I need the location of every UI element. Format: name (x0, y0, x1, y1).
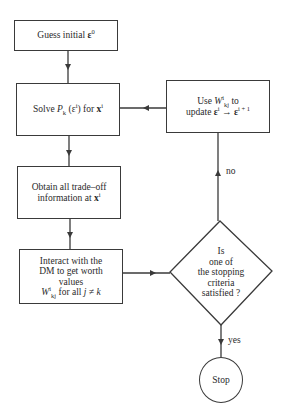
node-obtain-line1: Obtain all trade–off (32, 182, 107, 193)
arrow-left-icon (143, 105, 149, 111)
node-interact-line1: Interact with the (40, 256, 102, 267)
node-interact-dm: Interact with the DM to get worth values… (19, 249, 123, 304)
node-decision-stopping-criteria: Is one of the stopping criteria satisfie… (181, 246, 261, 299)
decision-line: satisfied ? (181, 288, 261, 299)
node-interact-line2: DM to get worth (39, 266, 103, 277)
arrow-down-icon (66, 150, 72, 156)
node-stop: Stop (199, 357, 243, 403)
arrow-down-icon (67, 232, 73, 238)
arrow-up-icon (215, 170, 221, 176)
decision-line: Is (181, 246, 261, 257)
decision-line: one of (181, 257, 261, 268)
decision-line: criteria (181, 278, 261, 289)
node-interact-line3: values (59, 277, 83, 288)
node-update: Use Wikj to update εi → εi + 1 (166, 80, 270, 133)
stop-label: Stop (212, 375, 229, 385)
node-guess-initial: Guess initial ε0 (14, 20, 118, 51)
decision-line: the stopping (181, 267, 261, 278)
node-interact-line4: Wikj for all j ≠ k (41, 287, 100, 298)
arrow-down-icon (218, 339, 224, 345)
node-guess-text: Guess initial ε0 (37, 30, 94, 41)
node-obtain-line2: information at xi (37, 193, 100, 204)
arrow-down-icon (65, 64, 71, 70)
arrow-right-icon (150, 270, 156, 276)
node-obtain-tradeoff: Obtain all trade–off information at xi (17, 166, 121, 219)
edge-label-no: no (226, 166, 236, 176)
node-update-line2: update εi → εi + 1 (186, 107, 250, 118)
node-solve: Solve Pk (εi) for xi (16, 83, 120, 136)
edge-label-yes: yes (228, 335, 241, 345)
node-solve-text: Solve Pk (εi) for xi (33, 104, 103, 115)
